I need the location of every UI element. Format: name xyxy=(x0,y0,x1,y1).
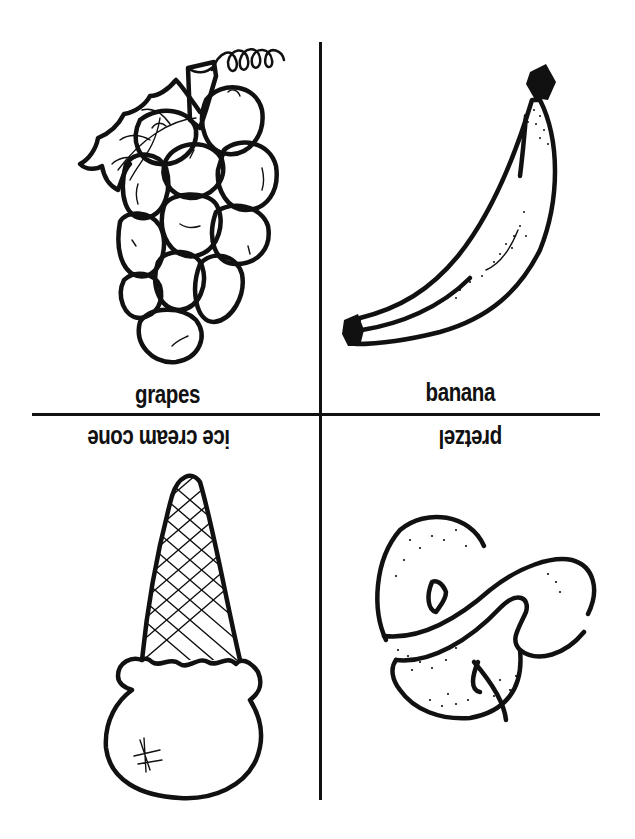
pretzel-label: pretzel xyxy=(439,424,502,453)
pretzel-icon xyxy=(0,0,635,839)
